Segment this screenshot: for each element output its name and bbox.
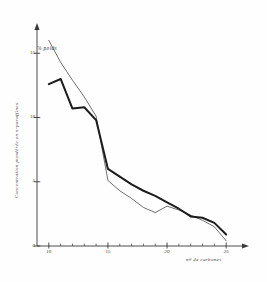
x-tick-label: 20	[160, 249, 174, 254]
y-tick-label: 10	[21, 114, 35, 119]
y-tick-label: 15	[21, 50, 35, 55]
chart-figure: Concentration pondérée en n-paraffines n…	[0, 0, 267, 282]
x-axis-arrow-icon	[242, 243, 249, 248]
x-tick-label: 25	[219, 249, 233, 254]
x-tick-label: 15	[101, 249, 115, 254]
x-axis-title: n# de carbones	[186, 257, 221, 262]
y-axis-title: Concentration pondérée en n-paraffines	[14, 91, 19, 211]
y-tick-label: 5	[21, 178, 35, 183]
y-tick-label: 0	[21, 243, 35, 248]
series-line-thick-curve	[49, 79, 226, 234]
chart-canvas	[0, 0, 267, 282]
percent-weight-annotation: % poids	[37, 45, 57, 51]
x-tick-label: 10	[42, 249, 56, 254]
series-line-thin-curve	[49, 40, 226, 240]
y-axis-arrow-icon	[34, 23, 39, 30]
